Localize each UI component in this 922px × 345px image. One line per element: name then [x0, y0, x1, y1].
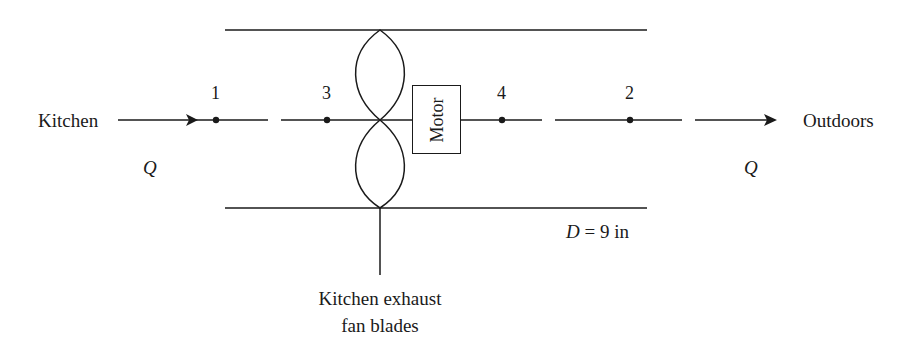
point-1-label: 1	[211, 84, 220, 102]
point-4-label: 4	[497, 84, 506, 102]
outlet-label: Outdoors	[803, 111, 874, 130]
point-2-label: 2	[625, 84, 634, 102]
inlet-label: Kitchen	[38, 111, 98, 130]
point-3-dot	[324, 117, 330, 123]
flow-rate-left: Q	[143, 158, 157, 177]
point-4-dot	[499, 117, 505, 123]
duct-diagram	[0, 0, 922, 345]
motor-box: Motor	[412, 85, 461, 154]
point-2-dot	[627, 117, 633, 123]
diameter-label: D = 9 in	[566, 222, 629, 241]
diameter-variable: D	[566, 221, 580, 242]
point-1-dot	[213, 117, 219, 123]
fan-caption-line1: Kitchen exhaust	[300, 285, 460, 312]
fan-blades-icon	[356, 30, 405, 208]
motor-label: Motor	[426, 97, 447, 142]
point-3-label: 3	[322, 84, 331, 102]
fan-caption: Kitchen exhaust fan blades	[300, 285, 460, 339]
fan-caption-line2: fan blades	[300, 312, 460, 339]
flow-rate-right: Q	[744, 158, 758, 177]
diameter-value: = 9 in	[584, 221, 629, 242]
